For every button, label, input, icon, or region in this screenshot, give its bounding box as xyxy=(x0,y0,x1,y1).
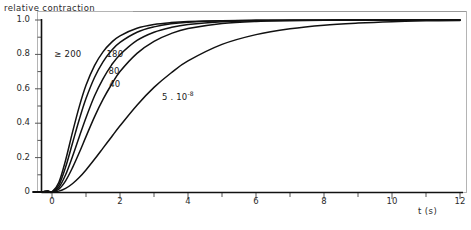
x-axis-title: t (s) xyxy=(418,206,437,216)
data-curves xyxy=(33,20,460,193)
curve-label-5e-8-mantissa: 5 . 10 xyxy=(162,92,188,102)
y-tick-label-1p0: 1.0 xyxy=(4,14,30,24)
x-tick-label-4: 4 xyxy=(176,196,200,206)
x-tick-label-8: 8 xyxy=(312,196,336,206)
y-axis-title: relative contraction xyxy=(4,3,95,13)
y-tick-label-0p2: 0.2 xyxy=(4,152,30,162)
curve-label-5e-8-exponent: -8 xyxy=(187,90,193,97)
curve-label-ge-200: ≥ 200 xyxy=(54,49,81,59)
chart-figure: relative contraction t (s) 1.0 0.8 0.6 0… xyxy=(0,0,471,230)
y-tick-label-0p6: 0.6 xyxy=(4,83,30,93)
curve-label-5e-8: 5 . 10-8 xyxy=(162,92,194,102)
x-tick-label-2: 2 xyxy=(108,196,132,206)
x-tick-label-10: 10 xyxy=(380,196,404,206)
curve-label-180: 180 xyxy=(106,49,123,59)
x-tick-label-12: 12 xyxy=(448,196,471,206)
curve-label-80: 80 xyxy=(109,66,120,76)
axis-lines xyxy=(42,19,464,193)
y-tick-label-0: 0 xyxy=(4,186,30,196)
x-tick-label-0: 0 xyxy=(40,196,64,206)
x-tick-label-6: 6 xyxy=(244,196,268,206)
y-tick-label-0p4: 0.4 xyxy=(4,117,30,127)
curve-label-40: 40 xyxy=(109,79,120,89)
y-tick-label-0p8: 0.8 xyxy=(4,48,30,58)
